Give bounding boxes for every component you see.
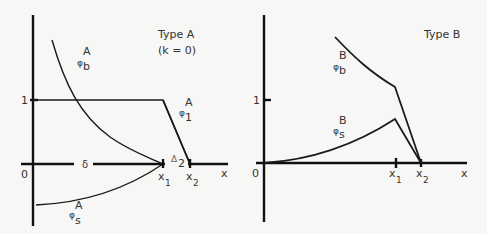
svg-text:1: 1	[165, 178, 171, 188]
svg-text:A: A	[185, 96, 193, 109]
svg-text:2: 2	[193, 178, 199, 188]
svg-text:x: x	[389, 167, 396, 180]
svg-text:1: 1	[185, 111, 192, 124]
x2-label-b: x 2	[416, 167, 429, 185]
svg-text:b: b	[83, 60, 90, 73]
label-phi-1-a: φ 1 A	[179, 96, 193, 124]
svg-text:x: x	[186, 170, 193, 183]
x1-label-a: x 1	[158, 170, 171, 188]
panel-title-a: Type A	[157, 28, 195, 41]
y-tick-label-b: 1	[253, 94, 260, 107]
svg-text:x: x	[416, 167, 423, 180]
y-tick-label-a: 1	[21, 94, 28, 107]
svg-text:2: 2	[423, 175, 429, 185]
svg-text:s: s	[75, 214, 81, 227]
svg-text:s: s	[339, 128, 345, 141]
curve-phi-s-a	[36, 164, 163, 205]
origin-label-a: 0	[21, 168, 28, 181]
svg-text:B: B	[339, 49, 347, 62]
x1-label-b: x 1	[389, 167, 402, 185]
diagram-canvas: Type A (k = 0) 1 0 x δ x 1 x 2 Δ 2 φ b A…	[0, 0, 487, 234]
label-phi-s-b: φ s B	[333, 114, 347, 141]
svg-text:x: x	[158, 170, 165, 183]
svg-text:A: A	[75, 199, 83, 212]
x-axis-label-b: x	[461, 167, 468, 180]
svg-text:Δ: Δ	[171, 154, 178, 164]
x2-label-a: x 2	[186, 170, 199, 188]
label-phi-b-a: φ b A	[77, 45, 91, 73]
x-axis-label-a: x	[221, 167, 228, 180]
svg-text:A: A	[83, 45, 91, 58]
panel-type-a: Type A (k = 0) 1 0 x δ x 1 x 2 Δ 2 φ b A…	[21, 15, 228, 227]
svg-text:2: 2	[178, 157, 185, 170]
delta-2-label: Δ 2	[171, 154, 185, 170]
panel-title-b: Type B	[423, 28, 460, 41]
panel-subtitle-a: (k = 0)	[158, 44, 196, 57]
svg-text:B: B	[339, 114, 347, 127]
label-phi-b-b: φ b B	[333, 49, 347, 77]
svg-text:1: 1	[396, 175, 402, 185]
curve-phi-b-a	[52, 40, 163, 164]
delta-gap-label: δ	[82, 159, 88, 170]
label-phi-s-a: φ s A	[69, 199, 83, 227]
svg-text:b: b	[339, 64, 346, 77]
panel-type-b: Type B 1 0 x x 1 x 2 φ b B φ s B	[252, 15, 468, 222]
origin-label-b: 0	[252, 167, 259, 180]
